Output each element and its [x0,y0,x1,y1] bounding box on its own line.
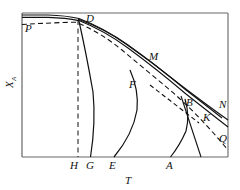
label-G: G [86,159,94,171]
label-D: D [85,12,94,24]
label-H: H [69,159,79,171]
curve-upper-inner [22,17,228,127]
label-K: K [202,111,211,123]
label-A: A [165,159,173,171]
label-M: M [148,50,159,62]
x-axis-label: T [125,174,132,186]
diagram-canvas: P D M F B K N Q H G E A T X A [0,0,240,190]
label-Q: Q [219,132,227,144]
label-E: E [108,159,116,171]
label-N: N [218,98,227,110]
y-axis-label-subscript: A [10,76,18,82]
y-axis-label-group: X A [3,76,18,89]
upper-curve-bundle [22,15,228,127]
label-P: P [24,22,32,34]
label-B: B [186,96,193,108]
plot-frame [22,13,228,157]
dashed-curve-P-to-Q [22,22,228,150]
phase-diagram-figure: P D M F B K N Q H G E A T X A [0,0,240,190]
label-F: F [128,78,136,90]
curve-D-to-G [79,19,95,157]
